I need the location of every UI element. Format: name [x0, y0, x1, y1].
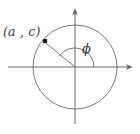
angle-phi-label: ϕ — [82, 42, 91, 55]
point-coordinate-label: (a , c) — [3, 26, 41, 39]
filled-square-dot-icon — [43, 39, 47, 43]
unit-circle-diagram: (a , c) ϕ — [0, 0, 140, 134]
diagram-canvas — [0, 0, 140, 134]
